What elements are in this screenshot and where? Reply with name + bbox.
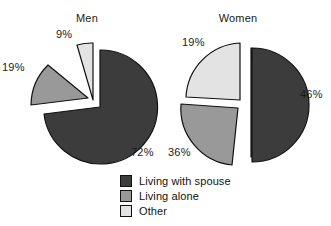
value-label-men-living-alone: 19% xyxy=(2,61,25,73)
value-label-men-other: 9% xyxy=(56,28,72,40)
legend-item-living-with-spouse: Living with spouse xyxy=(120,173,231,188)
legend-item-other: Other xyxy=(120,203,231,218)
pie-slice-women-other xyxy=(186,43,240,100)
legend-swatch-other xyxy=(120,205,132,217)
legend-label-living-alone: Living alone xyxy=(139,190,199,202)
legend-swatch-living-with-spouse xyxy=(120,175,132,187)
pie-chart-figure: Men Women 9% 19% 72% 19% 36% 46% Living … xyxy=(0,0,331,226)
value-label-women-other: 19% xyxy=(182,36,205,48)
legend-swatch-living-alone xyxy=(120,190,132,202)
pie-slice-women-living-with-spouse-body xyxy=(252,48,309,162)
value-label-women-living-alone: 36% xyxy=(168,146,191,158)
chart-legend: Living with spouse Living alone Other xyxy=(120,173,231,218)
value-label-men-living-with-spouse: 72% xyxy=(131,146,154,158)
value-label-women-living-with-spouse: 46% xyxy=(300,88,323,100)
legend-label-other: Other xyxy=(139,205,167,217)
legend-label-living-with-spouse: Living with spouse xyxy=(139,175,231,187)
pie-slice-men-living-alone xyxy=(31,65,88,105)
legend-item-living-alone: Living alone xyxy=(120,188,231,203)
